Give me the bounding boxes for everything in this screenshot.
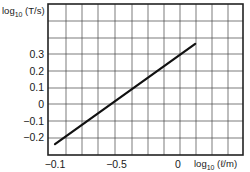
x-tick-label: −0.5 (106, 158, 127, 170)
y-tick-label: 0.1 (29, 81, 44, 93)
y-tick-label: −0.2 (23, 131, 44, 143)
x-tick-label: 0 (175, 158, 181, 170)
x-axis-label: log10 (ℓ/m) (194, 158, 237, 171)
x-axis-ticks: −0.1−0.50 (45, 158, 181, 170)
y-tick-label: 0 (38, 98, 44, 110)
y-axis-label: log10 (T/s) (2, 5, 45, 18)
y-tick-label: 0.2 (29, 65, 44, 77)
x-tick-label: −0.1 (45, 158, 66, 170)
data-series (55, 44, 195, 144)
y-tick-label: 0.3 (29, 48, 44, 60)
y-axis-ticks: 0.30.20.10−0.1−0.2 (23, 48, 44, 143)
chart-svg: 0.30.20.10−0.1−0.2 −0.1−0.50 log10 (T/s)… (0, 0, 250, 172)
y-tick-label: −0.1 (23, 115, 44, 127)
series-line (55, 44, 195, 144)
